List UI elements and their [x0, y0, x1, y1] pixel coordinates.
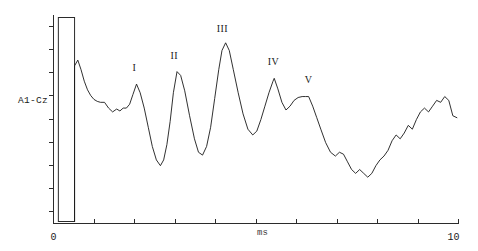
abr-waveform-figure: A1-Cz 0 10 ms IIIIIIIVV — [0, 0, 478, 251]
x-axis-tick-label-start: 0 — [51, 233, 57, 243]
peak-label-iii: III — [217, 24, 229, 34]
channel-label: A1-Cz — [18, 96, 48, 106]
peak-label-iv: IV — [268, 57, 280, 67]
x-axis-tick-label-end: 10 — [448, 233, 460, 243]
axes — [49, 15, 459, 224]
x-axis-unit-label: ms — [257, 229, 268, 238]
peak-label-v: V — [305, 75, 313, 85]
stimulus-artifact — [58, 18, 74, 222]
peak-label-ii: II — [171, 51, 179, 61]
peak-label-i: I — [133, 63, 137, 73]
stimulus-artifact-box — [58, 18, 74, 222]
waveform-plot — [0, 0, 478, 251]
